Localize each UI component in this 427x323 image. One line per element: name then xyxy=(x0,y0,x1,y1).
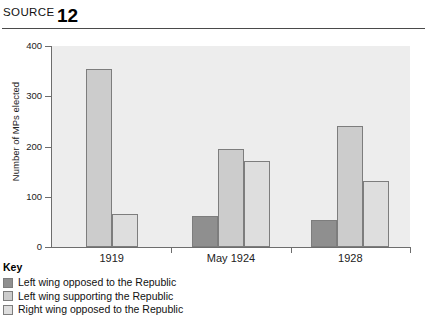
legend: Key Left wing opposed to the RepublicLef… xyxy=(3,262,233,317)
y-tick xyxy=(45,46,51,47)
y-tick-label: 300 xyxy=(2,91,42,101)
legend-title: Key xyxy=(3,262,233,273)
bar-group-container xyxy=(52,46,410,247)
y-tick-label: 0 xyxy=(2,242,42,252)
bar xyxy=(192,216,218,247)
legend-item: Left wing supporting the Republic xyxy=(3,290,233,304)
x-tick xyxy=(410,247,411,253)
y-tick-label: 200 xyxy=(2,142,42,152)
bar xyxy=(218,149,244,247)
legend-label: Right wing opposed to the Republic xyxy=(18,304,183,315)
y-tick xyxy=(45,247,51,248)
x-tick-label: 1928 xyxy=(291,252,410,264)
legend-item: Left wing opposed to the Republic xyxy=(3,276,233,290)
source-number: 12 xyxy=(57,6,78,25)
legend-label: Left wing opposed to the Republic xyxy=(18,277,176,288)
bar xyxy=(112,214,138,247)
bar xyxy=(311,220,337,247)
legend-item: Right wing opposed to the Republic xyxy=(3,303,233,317)
y-tick-label: 100 xyxy=(2,192,42,202)
legend-items: Left wing opposed to the RepublicLeft wi… xyxy=(3,276,233,317)
legend-swatch xyxy=(3,305,13,315)
y-tick xyxy=(45,147,51,148)
bar xyxy=(363,181,389,247)
bar-chart: Number of MPs elected 0100200300400 1919… xyxy=(0,30,427,260)
header-divider xyxy=(2,28,425,29)
legend-swatch xyxy=(3,278,13,288)
bar xyxy=(86,69,112,247)
y-tick xyxy=(45,197,51,198)
source-label: SOURCE xyxy=(3,6,55,18)
y-tick xyxy=(45,96,51,97)
bar xyxy=(337,126,363,247)
y-tick-label: 400 xyxy=(2,41,42,51)
legend-swatch xyxy=(3,291,13,301)
x-axis-line xyxy=(51,247,411,248)
legend-label: Left wing supporting the Republic xyxy=(18,291,173,302)
source-header: SOURCE 12 xyxy=(0,4,427,30)
bar xyxy=(244,161,270,247)
